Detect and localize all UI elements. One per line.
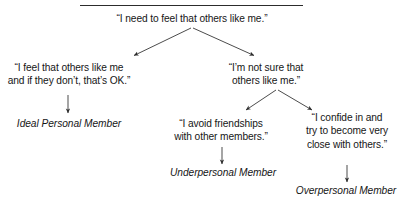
connector-root-to-left <box>134 28 191 56</box>
node-root-need: “I need to feel that others like me.” <box>92 12 292 25</box>
node-overdisclosure-response: “I confide in and try to become very clo… <box>292 111 402 151</box>
top-divider-rule <box>80 5 303 6</box>
outcome-ideal-personal-member: Ideal Personal Member <box>2 117 136 130</box>
node-avoidance-response: “I avoid friendships with other members.… <box>157 117 285 144</box>
node-secure-response: “I feel that others like me and if they … <box>0 61 138 88</box>
connector-right-to-middle <box>246 90 276 110</box>
outcome-underpersonal-member: Underpersonal Member <box>155 166 291 179</box>
connector-layer <box>0 0 402 211</box>
connector-root-to-right <box>193 28 254 56</box>
figure-canvas: “I need to feel that others like me.” “I… <box>0 0 402 211</box>
outcome-overpersonal-member: Overpersonal Member <box>290 184 402 197</box>
node-insecure-response: “I’m not sure that others like me.” <box>205 61 327 88</box>
connector-right-to-far <box>278 90 312 110</box>
